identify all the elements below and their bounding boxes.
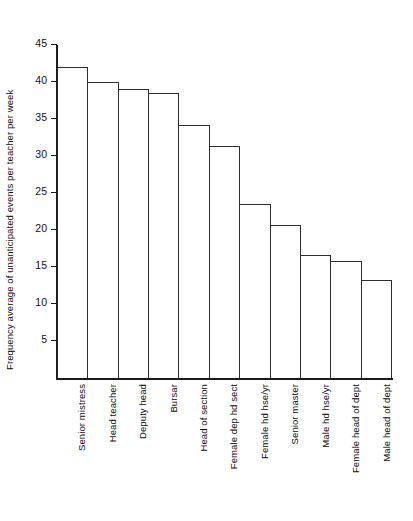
x-label-cell: Head teacher (87, 384, 117, 519)
y-tick-label: 5 (41, 333, 47, 345)
x-tick-label: Head of section (198, 384, 209, 452)
y-tick-label: 35 (35, 111, 47, 123)
x-tick-label: Male hd hse/yr (320, 384, 331, 448)
x-axis-tick-labels: Senior mistressHead teacherDeputy headBu… (57, 384, 392, 519)
bar-series (57, 45, 392, 378)
x-tick-label: Bursar (168, 384, 179, 413)
y-tick-label: 15 (35, 259, 47, 271)
y-tick-label: 40 (35, 74, 47, 86)
bar (118, 89, 149, 378)
bar (239, 204, 270, 378)
x-label-cell: Male hd hse/yr (301, 384, 331, 519)
x-tick-label: Female hd hse/yr (259, 384, 270, 459)
x-tick-label: Male head of dept (381, 384, 392, 462)
x-axis-line (56, 378, 393, 380)
plot-area: 51015202530354045 (57, 45, 392, 378)
x-tick-label: Female dep hd sect (228, 384, 239, 469)
y-tick-label: 10 (35, 296, 47, 308)
x-label-cell: Senior master (270, 384, 300, 519)
x-label-cell: Male head of dept (362, 384, 392, 519)
x-label-cell: Female hd hse/yr (240, 384, 270, 519)
x-tick-label: Head teacher (107, 384, 118, 442)
bar (178, 125, 209, 378)
x-tick-label: Senior mistress (76, 384, 87, 451)
y-tick-label: 30 (35, 148, 47, 160)
x-label-cell: Bursar (148, 384, 178, 519)
y-tick-label: 25 (35, 185, 47, 197)
bar (361, 280, 392, 378)
x-tick-label: Female head of dept (350, 384, 361, 473)
bar (148, 93, 179, 378)
bar (57, 67, 88, 378)
bar-chart-figure: Frequency average of unanticipated event… (0, 0, 413, 521)
bar (330, 261, 361, 378)
bar (209, 146, 240, 378)
x-tick-label: Senior master (289, 384, 300, 444)
x-label-cell: Female dep hd sect (209, 384, 239, 519)
y-axis-title-container: Frequency average of unanticipated event… (0, 40, 24, 370)
bar (270, 225, 301, 378)
bar (87, 82, 118, 378)
x-tick-label: Deputy head (137, 384, 148, 439)
bar (300, 255, 331, 378)
x-label-cell: Female head of dept (331, 384, 361, 519)
x-label-cell: Deputy head (118, 384, 148, 519)
x-label-cell: Head of section (179, 384, 209, 519)
x-label-cell: Senior mistress (57, 384, 87, 519)
y-tick-label: 20 (35, 222, 47, 234)
y-axis-title: Frequency average of unanticipated event… (4, 90, 15, 370)
y-tick-label: 45 (35, 37, 47, 49)
